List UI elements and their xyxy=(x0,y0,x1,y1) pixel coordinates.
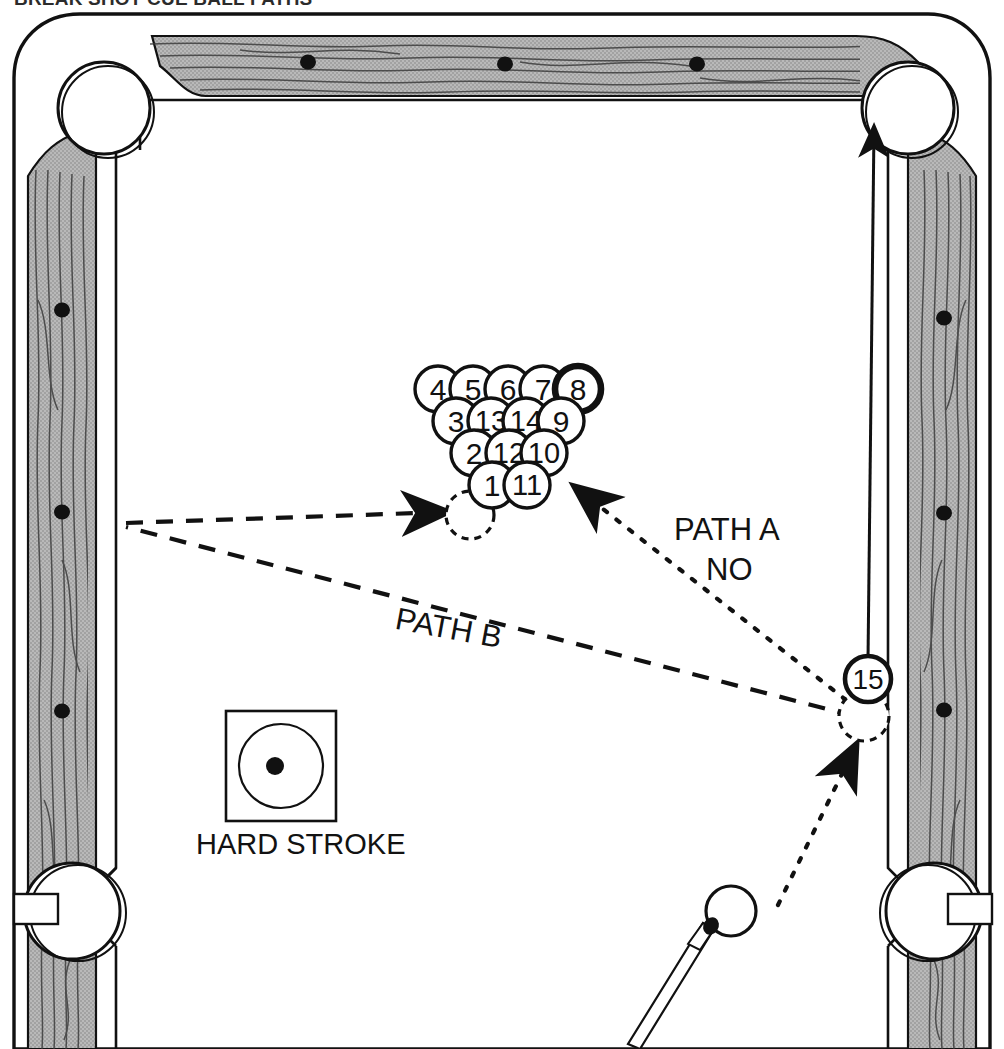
diamond-top-2 xyxy=(497,56,513,71)
diamond-right-1 xyxy=(936,310,952,325)
path-a-label: PATH A xyxy=(674,512,780,548)
tip-contact-diagram xyxy=(226,711,336,821)
path-a-verdict-label: NO xyxy=(706,552,753,588)
diamond-right-3 xyxy=(936,702,952,717)
hard-stroke-label: HARD STROKE xyxy=(196,828,405,861)
diagram-canvas: BREAK SHOT CUE BALL PATHS xyxy=(0,0,1004,1049)
rack-ball-label: 1 xyxy=(484,469,501,502)
rack-ball-label: 11 xyxy=(512,469,542,501)
pool-table-svg: 4 5 6 7 8 3 13 14 9 xyxy=(0,0,1004,1049)
diamond-top-3 xyxy=(689,56,705,71)
rail-top xyxy=(60,36,960,96)
diamond-left-1 xyxy=(54,302,70,317)
diamond-top-1 xyxy=(300,54,316,69)
diamond-right-2 xyxy=(936,505,952,520)
ball-15-label: 15 xyxy=(852,664,883,695)
diamond-left-2 xyxy=(54,504,70,519)
ball-15: 15 xyxy=(845,656,891,702)
rack-row-4: 1 11 xyxy=(469,462,550,508)
table-outline xyxy=(14,14,990,1049)
tip-contact-dot-icon xyxy=(266,757,284,775)
diamond-left-3 xyxy=(54,703,70,718)
